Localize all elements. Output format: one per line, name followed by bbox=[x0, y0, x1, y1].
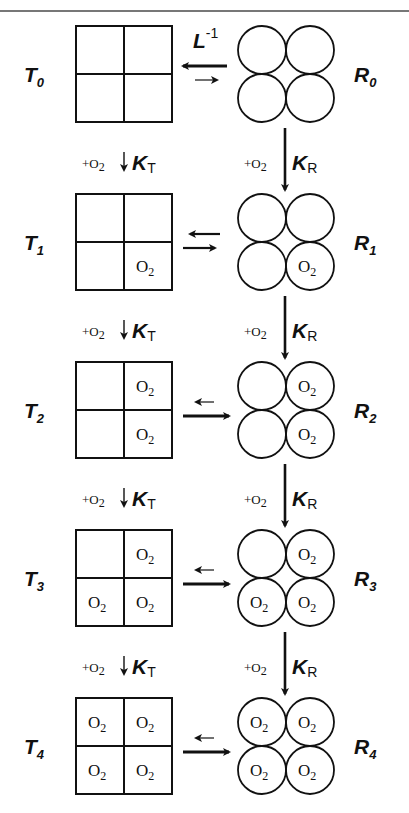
kr-constant-label: KR bbox=[292, 319, 317, 344]
relaxed-binding-label: +O2 bbox=[244, 156, 267, 174]
r-state-circles: O2O2O2 bbox=[238, 530, 334, 626]
r-state-label: R2 bbox=[354, 399, 377, 426]
state-row-0: T0R0L-1 bbox=[24, 25, 377, 122]
r-state-circles: O2O2O2O2 bbox=[238, 698, 334, 794]
subunit-circle bbox=[238, 410, 286, 458]
o2-ligand-label: O2 bbox=[136, 761, 154, 783]
kt-constant-label: KT bbox=[132, 487, 156, 512]
equilibrium-arrows bbox=[183, 738, 229, 752]
relaxed-binding-label: +O2 bbox=[244, 492, 267, 510]
o2-ligand-label: O2 bbox=[298, 545, 316, 567]
t-state-square: O2O2O2 bbox=[76, 530, 172, 626]
o2-ligand-label: O2 bbox=[136, 593, 154, 615]
binding-step-3: +O2KT+O2KR bbox=[82, 632, 317, 694]
kt-constant-label: KT bbox=[132, 655, 156, 680]
t-state-label: T2 bbox=[24, 399, 45, 426]
subunit-circle bbox=[238, 530, 286, 578]
t-state-square: O2 bbox=[76, 194, 172, 290]
r-state-label: R0 bbox=[354, 63, 377, 90]
mwc-diagram: T0R0L-1+O2KT+O2KRT1R1O2O2+O2KT+O2KRT2R2O… bbox=[0, 0, 409, 813]
allosteric-constant-label: L-1 bbox=[193, 25, 218, 52]
o2-ligand-label: O2 bbox=[88, 713, 106, 735]
o2-ligand-label: O2 bbox=[250, 761, 268, 783]
t-state-square: O2O2 bbox=[76, 362, 172, 458]
t-state-label: T1 bbox=[24, 231, 44, 258]
t-state-square bbox=[76, 26, 172, 122]
tense-binding-label: +O2 bbox=[82, 324, 105, 342]
subunit-circle bbox=[238, 194, 286, 242]
t-state-label: T4 bbox=[24, 735, 45, 762]
subunit-circle bbox=[238, 74, 286, 122]
binding-step-1: +O2KT+O2KR bbox=[82, 296, 317, 358]
state-row-3: T3R3O2O2O2O2O2O2 bbox=[24, 530, 377, 626]
o2-ligand-label: O2 bbox=[250, 593, 268, 615]
o2-ligand-label: O2 bbox=[298, 761, 316, 783]
r-state-circles bbox=[238, 26, 334, 122]
o2-ligand-label: O2 bbox=[136, 425, 154, 447]
relaxed-binding-label: +O2 bbox=[244, 660, 267, 678]
relaxed-binding-label: +O2 bbox=[244, 324, 267, 342]
tense-binding-label: +O2 bbox=[82, 660, 105, 678]
r-state-circles: O2 bbox=[238, 194, 334, 290]
kr-constant-label: KR bbox=[292, 151, 317, 176]
subunit-circle bbox=[238, 26, 286, 74]
o2-ligand-label: O2 bbox=[250, 713, 268, 735]
subunit-circle bbox=[238, 362, 286, 410]
equilibrium-arrows bbox=[183, 570, 229, 584]
o2-ligand-label: O2 bbox=[136, 377, 154, 399]
subunit-circle bbox=[286, 26, 334, 74]
o2-ligand-label: O2 bbox=[88, 761, 106, 783]
state-row-1: T1R1O2O2 bbox=[24, 194, 376, 290]
state-row-2: T2R2O2O2O2O2 bbox=[24, 362, 377, 458]
t-state-label: T3 bbox=[24, 567, 45, 594]
r-state-label: R1 bbox=[354, 231, 376, 258]
equilibrium-arrows bbox=[183, 66, 227, 80]
o2-ligand-label: O2 bbox=[136, 545, 154, 567]
equilibrium-arrows bbox=[183, 402, 229, 416]
o2-ligand-label: O2 bbox=[298, 377, 316, 399]
kt-constant-label: KT bbox=[132, 151, 156, 176]
binding-step-0: +O2KT+O2KR bbox=[82, 128, 317, 190]
r-state-label: R4 bbox=[354, 735, 377, 762]
r-state-label: R3 bbox=[354, 567, 377, 594]
o2-ligand-label: O2 bbox=[298, 593, 316, 615]
o2-ligand-label: O2 bbox=[136, 257, 154, 279]
o2-ligand-label: O2 bbox=[298, 713, 316, 735]
binding-step-2: +O2KT+O2KR bbox=[82, 464, 317, 526]
subunit-circle bbox=[238, 242, 286, 290]
equilibrium-arrows bbox=[183, 234, 220, 248]
kr-constant-label: KR bbox=[292, 655, 317, 680]
kt-constant-label: KT bbox=[132, 319, 156, 344]
o2-ligand-label: O2 bbox=[298, 257, 316, 279]
o2-ligand-label: O2 bbox=[298, 425, 316, 447]
o2-ligand-label: O2 bbox=[88, 593, 106, 615]
state-row-4: T4R4O2O2O2O2O2O2O2O2 bbox=[24, 698, 377, 794]
o2-ligand-label: O2 bbox=[136, 713, 154, 735]
tense-binding-label: +O2 bbox=[82, 492, 105, 510]
kr-constant-label: KR bbox=[292, 487, 317, 512]
subunit-circle bbox=[286, 74, 334, 122]
tense-binding-label: +O2 bbox=[82, 156, 105, 174]
t-state-label: T0 bbox=[24, 63, 45, 90]
subunit-circle bbox=[286, 194, 334, 242]
t-state-square: O2O2O2O2 bbox=[76, 698, 172, 794]
r-state-circles: O2O2 bbox=[238, 362, 334, 458]
